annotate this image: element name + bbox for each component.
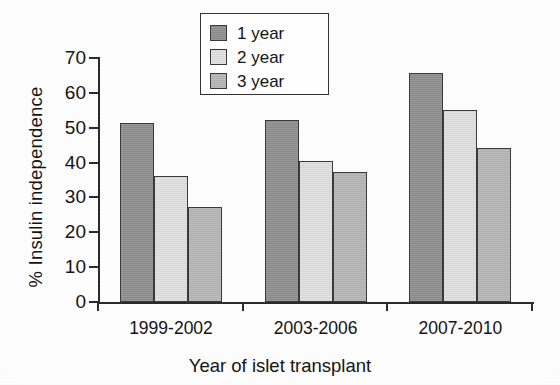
bar-2007-2010-2-year: [443, 110, 477, 302]
bar-2003-2006-1-year: [265, 120, 299, 302]
y-tick-label: 50: [0, 117, 94, 139]
bar-2007-2010-3-year: [477, 148, 511, 302]
bar-1999-2002-3-year: [188, 207, 222, 302]
x-category-label: 2007-2010: [400, 318, 520, 339]
legend-label-3-year: 3 year: [237, 73, 284, 90]
legend-label-2-year: 2 year: [237, 49, 284, 66]
x-axis-line: [97, 302, 534, 304]
x-axis-title: Year of islet transplant: [0, 355, 560, 377]
legend-swatch-3-year: [210, 73, 227, 89]
x-category-label: 2003-2006: [256, 318, 376, 339]
chart-legend: 1 year 2 year 3 year: [200, 13, 329, 95]
legend-label-1-year: 1 year: [237, 25, 284, 42]
legend-item-2-year: 2 year: [210, 45, 328, 69]
legend-swatch-1-year: [210, 25, 227, 41]
bar-1999-2002-1-year: [120, 123, 154, 303]
x-tick-mark: [242, 303, 244, 311]
legend-swatch-2-year: [210, 49, 227, 65]
y-tick-label: 70: [0, 47, 94, 69]
y-tick-label: 40: [0, 152, 94, 174]
y-tick-label: 0: [0, 291, 94, 313]
x-tick-mark: [531, 303, 533, 311]
y-tick-label: 60: [0, 82, 94, 104]
y-tick-label: 30: [0, 186, 94, 208]
bar-1999-2002-2-year: [154, 176, 188, 302]
y-tick-label: 20: [0, 221, 94, 243]
x-tick-mark: [386, 303, 388, 311]
y-tick-label: 10: [0, 256, 94, 278]
x-category-label: 1999-2002: [111, 318, 231, 339]
bar-chart-figure: % Insulin independence 010203040506070 1…: [0, 0, 560, 385]
x-tick-mark: [97, 303, 99, 311]
legend-item-1-year: 1 year: [210, 21, 328, 45]
bar-2003-2006-2-year: [299, 161, 333, 302]
bar-2003-2006-3-year: [333, 172, 367, 302]
bar-2007-2010-1-year: [409, 73, 443, 302]
legend-item-3-year: 3 year: [210, 69, 328, 93]
